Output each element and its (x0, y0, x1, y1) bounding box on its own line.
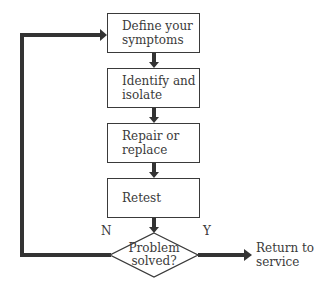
yes-label: Y (203, 224, 211, 238)
no-label: N (101, 224, 112, 238)
yes-arrow-line (198, 253, 245, 257)
arrow-define-to-identify (152, 53, 156, 63)
step-label: Repair or replace (122, 129, 179, 157)
yes-arrowhead (244, 249, 252, 261)
step-label: Retest (122, 191, 161, 205)
step-identify-isolate: Identify and isolate (107, 68, 200, 108)
loop-line-left (20, 33, 24, 257)
arrow-retest-to-decision (152, 218, 156, 228)
step-label: Identify and isolate (122, 74, 196, 102)
arrow-identify-to-repair (152, 108, 156, 118)
step-define-symptoms: Define your symptoms (107, 13, 200, 53)
loop-line-bottom (20, 253, 111, 257)
outcome-return-to-service: Return to service (256, 241, 314, 269)
step-retest: Retest (107, 178, 200, 218)
step-repair-replace: Repair or replace (107, 123, 200, 163)
loop-arrowhead (100, 29, 107, 41)
decision-label: Problem solved? (110, 242, 198, 268)
loop-line-top (20, 33, 101, 37)
arrow-repair-to-retest (152, 163, 156, 173)
step-label: Define your symptoms (122, 19, 193, 47)
